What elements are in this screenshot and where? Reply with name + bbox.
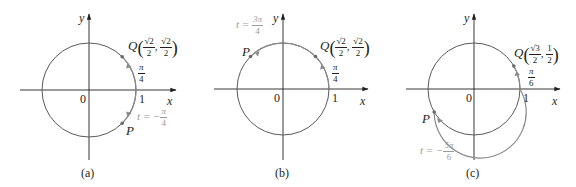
arc-numerator: π xyxy=(528,67,535,78)
arc-to-q xyxy=(122,57,136,90)
q-y-numerator: √2 xyxy=(352,37,363,48)
y-axis-label: y xyxy=(79,12,84,24)
t-value-label: t = −5π6 xyxy=(420,141,454,162)
q-y-numerator: √2 xyxy=(160,37,171,48)
point-p-label: P xyxy=(126,124,134,137)
point-q xyxy=(120,55,124,59)
arc-denominator: 4 xyxy=(333,74,338,84)
t-denominator: 4 xyxy=(161,118,166,128)
q-x-denominator: 2 xyxy=(533,55,538,65)
q-name: Q xyxy=(128,38,137,53)
one-label: 1 xyxy=(523,92,529,104)
point-p-label: P xyxy=(242,45,250,58)
arc-to-p xyxy=(251,43,330,89)
point-p-label: P xyxy=(422,112,430,125)
q-y-denominator: 2 xyxy=(547,55,552,65)
origin-label: 0 xyxy=(80,93,86,105)
arc-to-q xyxy=(514,66,520,89)
t-value-label: t = 3π4 xyxy=(236,15,263,36)
point-q-label: Q(√32, 12) xyxy=(514,44,559,65)
q-x-numerator: √2 xyxy=(143,37,154,48)
panel-c-graphic xyxy=(406,14,560,160)
q-name: Q xyxy=(514,45,523,60)
q-y-denominator: 2 xyxy=(164,48,169,58)
q-x-numerator: √3 xyxy=(529,44,540,55)
t-prefix: t = xyxy=(236,18,252,30)
caption-c: (c) xyxy=(466,167,479,179)
x-axis-label: x xyxy=(167,95,172,107)
point-q-label: Q(√22, √22) xyxy=(320,37,370,58)
origin-label: 0 xyxy=(274,92,280,104)
arc-denominator: 6 xyxy=(529,78,534,88)
q-y-denominator: 2 xyxy=(356,48,361,58)
arc-numerator: π xyxy=(138,63,145,74)
t-value-label: t = −π4 xyxy=(137,107,167,128)
arc-angle-label: π4 xyxy=(138,63,145,84)
x-axis-label: x xyxy=(552,95,557,107)
origin-label: 0 xyxy=(466,92,472,104)
q-x-denominator: 2 xyxy=(147,48,152,58)
point-p xyxy=(120,121,124,125)
t-numerator: 3π xyxy=(252,15,263,26)
t-denominator: 4 xyxy=(255,26,260,36)
one-label: 1 xyxy=(332,92,338,104)
q-x-denominator: 2 xyxy=(339,48,344,58)
point-q-label: Q(√22, √22) xyxy=(128,37,178,58)
arc-angle-label: π6 xyxy=(528,67,535,88)
t-numerator: π xyxy=(160,107,167,118)
arc-angle-label: π4 xyxy=(332,63,339,84)
y-axis-label: y xyxy=(464,12,469,24)
point-p xyxy=(432,110,436,114)
t-prefix: t = − xyxy=(420,144,443,156)
caption-a: (a) xyxy=(81,167,94,179)
point-q xyxy=(314,55,318,59)
arc-denominator: 4 xyxy=(139,74,144,84)
t-numerator: 5π xyxy=(443,141,454,152)
x-axis-label: x xyxy=(360,95,365,107)
t-prefix: t = − xyxy=(137,110,160,122)
q-name: Q xyxy=(320,38,329,53)
unit-circle-diagrams xyxy=(0,0,576,187)
arc-to-p xyxy=(122,90,136,123)
caption-b: (b) xyxy=(275,167,289,179)
t-denominator: 6 xyxy=(447,152,452,162)
y-axis-label: y xyxy=(273,12,278,24)
one-label: 1 xyxy=(139,93,145,105)
q-x-numerator: √2 xyxy=(335,37,346,48)
arc-numerator: π xyxy=(332,63,339,74)
